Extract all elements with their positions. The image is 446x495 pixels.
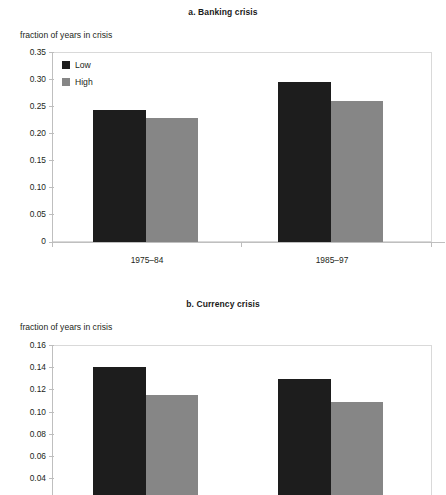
y-tick-mark: [49, 412, 54, 413]
legend-item-low[interactable]: Low: [62, 58, 93, 72]
y-axis-title-a: fraction of years in crisis: [20, 30, 112, 40]
x-tick-mark: [431, 242, 432, 247]
legend-a: Low High: [62, 58, 93, 92]
y-tick-mark: [49, 79, 54, 80]
bar-low-1985-97[interactable]: [278, 379, 331, 495]
y-tick-mark: [49, 434, 54, 435]
y-tick-label: 0.10: [2, 182, 46, 192]
chart-title-a: a. Banking crisis: [0, 7, 446, 17]
y-tick-mark: [49, 214, 54, 215]
y-tick-label: 0.12: [2, 384, 46, 394]
legend-swatch-high-icon: [62, 78, 70, 86]
y-tick-mark: [49, 106, 54, 107]
bar-low-1985-97[interactable]: [278, 82, 331, 242]
legend-label-high: High: [75, 77, 93, 87]
y-tick-mark: [49, 52, 54, 53]
y-tick-label: 0.20: [2, 128, 46, 138]
legend-label-low: Low: [75, 60, 91, 70]
y-tick-mark: [49, 478, 54, 479]
y-tick-label: 0.08: [2, 429, 46, 439]
y-tick-label: 0.10: [2, 407, 46, 417]
chart-title-b: b. Currency crisis: [0, 299, 446, 309]
y-tick-mark: [49, 133, 54, 134]
y-tick-label: 0.30: [2, 74, 46, 84]
chart-panel-banking-crisis: a. Banking crisis fraction of years in c…: [0, 0, 446, 290]
bar-high-1985-97[interactable]: [331, 402, 383, 495]
x-tick-mark: [52, 242, 53, 247]
y-tick-mark: [49, 389, 54, 390]
y-tick-label: 0.06: [2, 451, 46, 461]
legend-swatch-low-icon: [62, 61, 70, 69]
y-tick-label: 0.04: [2, 473, 46, 483]
y-tick-label: 0.35: [2, 47, 46, 57]
x-axis-line-a: [52, 242, 445, 243]
bar-low-1975-84[interactable]: [93, 110, 146, 242]
bar-high-1975-84[interactable]: [146, 118, 198, 242]
bar-low-1975-84[interactable]: [93, 367, 146, 495]
x-tick-label: 1985–97: [282, 255, 382, 265]
chart-panel-currency-crisis: b. Currency crisis fraction of years in …: [0, 290, 446, 495]
y-tick-label: 0.14: [2, 362, 46, 372]
y-tick-label: 0.16: [2, 340, 46, 350]
x-tick-mark: [241, 242, 242, 247]
bar-high-1975-84[interactable]: [146, 395, 198, 495]
y-axis-title-b: fraction of years in crisis: [20, 322, 112, 332]
y-tick-mark: [49, 367, 54, 368]
legend-item-high[interactable]: High: [62, 75, 93, 89]
y-tick-mark: [49, 345, 54, 346]
y-tick-mark: [49, 456, 54, 457]
x-tick-label: 1975–84: [97, 255, 197, 265]
y-tick-mark: [49, 187, 54, 188]
y-tick-label: 0.15: [2, 155, 46, 165]
bar-high-1985-97[interactable]: [331, 101, 383, 242]
y-tick-label: 0.05: [2, 209, 46, 219]
y-tick-label: 0.25: [2, 101, 46, 111]
y-tick-mark: [49, 160, 54, 161]
y-tick-label: 0: [2, 236, 46, 246]
